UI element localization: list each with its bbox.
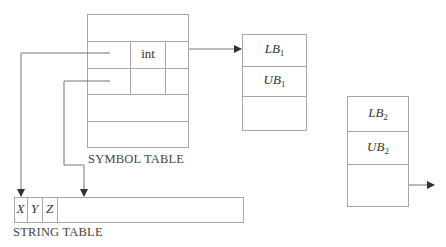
pointer-arrow-name-start — [21, 53, 110, 196]
connector-layer — [0, 0, 446, 247]
pointer-arrow-name-end — [64, 81, 110, 196]
